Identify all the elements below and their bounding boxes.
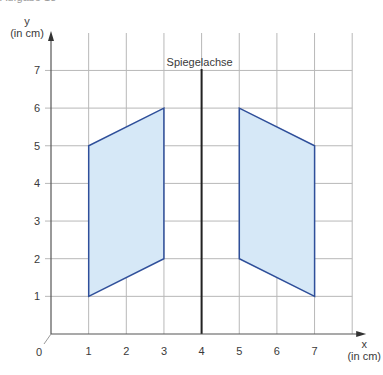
mirror-axis-label: Spiegelachse [167, 56, 233, 68]
y-axis-title: y [24, 15, 30, 27]
original-trapezoid [89, 108, 164, 296]
y-tick-label: 6 [34, 102, 40, 114]
y-tick-label: 1 [34, 290, 40, 302]
origin-stub [44, 334, 51, 344]
y-axis-arrow-icon [48, 31, 54, 41]
y-tick-label: 3 [34, 215, 40, 227]
x-tick-label: 2 [123, 345, 129, 357]
x-tick-label: 7 [311, 345, 317, 357]
y-tick-label: 5 [34, 140, 40, 152]
y-axis-unit: (in cm) [10, 27, 44, 39]
x-tick-label: 6 [274, 345, 280, 357]
y-tick-label: 2 [34, 253, 40, 265]
x-tick-label: 4 [199, 345, 205, 357]
y-tick-label: 4 [34, 177, 40, 189]
x-tick-label: 1 [86, 345, 92, 357]
axis-labels: Spiegelachse123456712345670x(in cm)y(in … [10, 15, 381, 362]
origin-label: 0 [36, 346, 42, 358]
mirror-image-trapezoid [239, 108, 314, 296]
x-axis-arrow-icon [356, 331, 366, 337]
x-axis-unit: (in cm) [347, 350, 381, 362]
x-tick-label: 3 [161, 345, 167, 357]
y-tick-label: 7 [34, 64, 40, 76]
x-axis-title: x [361, 338, 367, 350]
x-tick-label: 5 [236, 345, 242, 357]
coordinate-diagram: Spiegelachse123456712345670x(in cm)y(in … [0, 0, 383, 375]
